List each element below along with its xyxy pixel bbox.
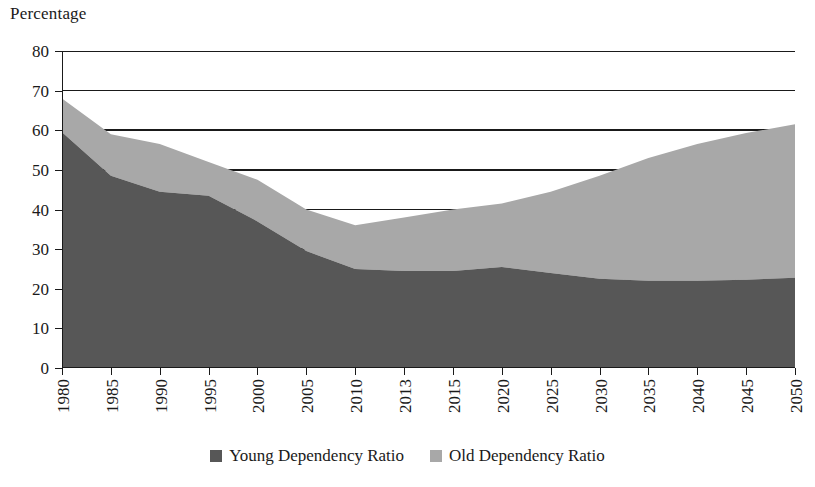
chart-legend: Young Dependency RatioOld Dependency Rat… <box>0 447 815 464</box>
x-tick-label-2025: 2025 <box>544 379 561 413</box>
plot-svg <box>62 51 795 368</box>
dependency-ratio-area-chart: Percentage 80706050403020100 19801985199… <box>0 0 815 487</box>
x-tick-mark-2045 <box>746 368 747 375</box>
x-tick-label-2050: 2050 <box>788 379 805 413</box>
x-tick-label-1990: 1990 <box>153 379 170 413</box>
y-tick-label-30: 30 <box>32 241 49 258</box>
x-tick-mark-1985 <box>111 368 112 375</box>
x-tick-mark-2005 <box>306 368 307 375</box>
x-tick-label-2005: 2005 <box>299 379 316 413</box>
y-tick-label-80: 80 <box>32 43 49 60</box>
x-tick-mark-2040 <box>697 368 698 375</box>
y-tick-mark-80 <box>55 51 62 52</box>
x-tick-label-1980: 1980 <box>55 379 72 413</box>
legend-swatch-icon <box>210 450 222 462</box>
x-tick-mark-1995 <box>209 368 210 375</box>
x-tick-mark-2025 <box>551 368 552 375</box>
plot-area <box>62 51 795 368</box>
legend-label: Young Dependency Ratio <box>229 447 404 464</box>
y-tick-mark-40 <box>55 210 62 211</box>
x-tick-label-2020: 2020 <box>495 379 512 413</box>
x-tick-mark-2013 <box>404 368 405 375</box>
x-axis: 1980198519901995200020052010201320152020… <box>62 368 795 487</box>
x-tick-label-2040: 2040 <box>690 379 707 413</box>
y-tick-label-10: 10 <box>32 320 49 337</box>
legend-label: Old Dependency Ratio <box>449 447 605 464</box>
x-tick-label-2000: 2000 <box>250 379 267 413</box>
y-tick-label-70: 70 <box>32 82 49 99</box>
x-tick-label-2030: 2030 <box>593 379 610 413</box>
x-tick-mark-2010 <box>355 368 356 375</box>
x-tick-label-2015: 2015 <box>446 379 463 413</box>
y-tick-label-50: 50 <box>32 161 49 178</box>
x-tick-mark-2030 <box>600 368 601 375</box>
x-tick-mark-1990 <box>160 368 161 375</box>
legend-item-old-dependency-ratio: Old Dependency Ratio <box>430 447 605 464</box>
y-tick-label-60: 60 <box>32 122 49 139</box>
y-tick-mark-0 <box>55 368 62 369</box>
x-tick-mark-2035 <box>648 368 649 375</box>
x-tick-label-2010: 2010 <box>348 379 365 413</box>
x-tick-label-2045: 2045 <box>739 379 756 413</box>
x-tick-label-2035: 2035 <box>641 379 658 413</box>
x-tick-mark-2050 <box>795 368 796 375</box>
x-tick-mark-2015 <box>453 368 454 375</box>
area-series <box>62 99 795 368</box>
y-tick-mark-10 <box>55 328 62 329</box>
x-tick-label-1985: 1985 <box>104 379 121 413</box>
y-tick-label-40: 40 <box>32 201 49 218</box>
x-tick-label-2013: 2013 <box>397 379 414 413</box>
y-tick-mark-70 <box>55 91 62 92</box>
x-tick-mark-2000 <box>257 368 258 375</box>
legend-swatch-icon <box>430 450 442 462</box>
y-tick-mark-20 <box>55 289 62 290</box>
y-tick-label-0: 0 <box>41 360 50 377</box>
x-tick-label-1995: 1995 <box>202 379 219 413</box>
y-tick-mark-60 <box>55 130 62 131</box>
legend-item-young-dependency-ratio: Young Dependency Ratio <box>210 447 404 464</box>
y-tick-mark-50 <box>55 170 62 171</box>
y-tick-label-20: 20 <box>32 280 49 297</box>
y-tick-mark-30 <box>55 249 62 250</box>
x-tick-mark-2020 <box>502 368 503 375</box>
x-tick-mark-1980 <box>62 368 63 375</box>
y-axis: 80706050403020100 <box>0 0 62 487</box>
